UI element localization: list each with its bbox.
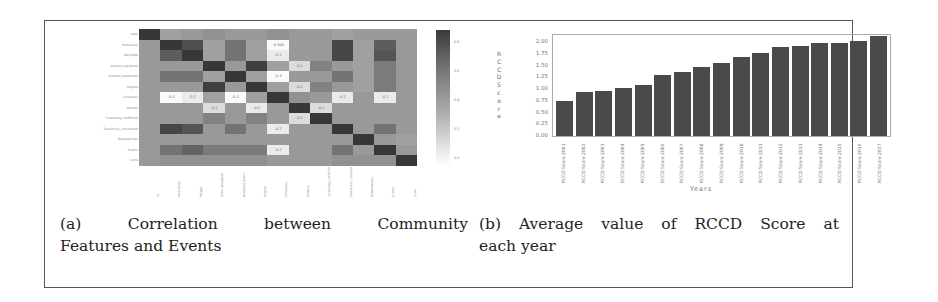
heatmap-cell: -0.3 xyxy=(160,92,181,103)
heatmap-cell xyxy=(374,40,395,51)
y-tick-label: 2.00 xyxy=(536,38,548,44)
heatmap-cell xyxy=(396,71,417,82)
heatmap-cell xyxy=(310,145,331,156)
heatmap-cell xyxy=(139,50,160,61)
heatmap-row-label: Transitivity_component xyxy=(90,124,138,135)
bar xyxy=(713,63,730,136)
heatmap-cell xyxy=(160,145,181,156)
heatmap-cell xyxy=(353,40,374,51)
caption-word: RCCD xyxy=(694,213,742,235)
heatmap-cell xyxy=(203,145,224,156)
heatmap-col-label: transitivity_component xyxy=(332,167,353,197)
heatmap-cell xyxy=(310,155,331,166)
heatmap-cell xyxy=(203,134,224,145)
heatmap-cell xyxy=(310,92,331,103)
heatmap-cell xyxy=(182,50,203,61)
x-tick-label: RCCD Score 2011 xyxy=(752,138,769,183)
caption-word: of xyxy=(661,213,676,235)
y-tick-label: 1.75 xyxy=(536,50,548,56)
heatmap-cell xyxy=(396,50,417,61)
heatmap-cell xyxy=(374,82,395,93)
heatmap-cell xyxy=(203,92,224,103)
heatmap-row-label: Degree xyxy=(90,82,138,93)
heatmap-cell: -0.2 xyxy=(332,92,353,103)
heatmap-cell xyxy=(160,40,181,51)
bar xyxy=(674,72,691,136)
heatmap-cell xyxy=(225,82,246,93)
colorbar-tick: 0.2 xyxy=(454,127,460,131)
heatmap-cell xyxy=(139,134,160,145)
heatmap-cell xyxy=(289,92,310,103)
y-title-char: r xyxy=(495,105,503,113)
heatmap-cell xyxy=(225,40,246,51)
caption-b-line1: (b)AveragevalueofRCCDScoreat xyxy=(479,213,839,235)
heatmap-col-label: Degree xyxy=(246,167,267,197)
x-tick-label: RCCD Score 2008 xyxy=(693,138,710,183)
y-title-char: c xyxy=(495,89,503,97)
heatmap-cell xyxy=(203,29,224,40)
x-tick-label: RCCD Score 2002 xyxy=(575,138,592,183)
heatmap-cell xyxy=(289,50,310,61)
heatmap-cell xyxy=(332,61,353,72)
y-title-char: o xyxy=(495,97,503,105)
heatmap-cell xyxy=(332,103,353,114)
heatmap-row-label: Density xyxy=(90,103,138,114)
bar xyxy=(595,91,612,136)
heatmap-cell: -0.2 xyxy=(267,50,288,61)
heatmap-cell xyxy=(396,155,417,166)
heatmap-cell xyxy=(374,50,395,61)
heatmap-cell xyxy=(246,145,267,156)
heatmap-row-label: Modularity xyxy=(90,40,138,51)
heatmap-cell xyxy=(225,124,246,135)
bar xyxy=(693,67,710,136)
heatmap-cell: -0.1 xyxy=(203,103,224,114)
heatmap-cell xyxy=(246,92,267,103)
y-tick-label: 0.50 xyxy=(536,109,548,115)
heatmap-cell xyxy=(160,124,181,135)
heatmap-cell xyxy=(374,155,395,166)
heatmap-cell xyxy=(353,61,374,72)
heatmap-cell xyxy=(267,29,288,40)
x-tick-label: RCCD Score 2009 xyxy=(713,138,730,183)
y-title-char: C xyxy=(495,58,503,66)
y-tick-label: 0.25 xyxy=(536,120,548,126)
x-tick-label: RCCD Score 2012 xyxy=(772,138,789,183)
heatmap-cell xyxy=(374,61,395,72)
x-tick-label: RCCD Score 2005 xyxy=(634,138,651,183)
heatmap-cell xyxy=(225,155,246,166)
y-axis-ticks: 0.000.250.500.751.001.251.501.752.00 xyxy=(518,30,548,140)
y-title-char: D xyxy=(495,73,503,81)
heatmap-cell xyxy=(332,71,353,82)
heatmap-cell xyxy=(267,134,288,145)
heatmap-cell xyxy=(182,155,203,166)
bar xyxy=(576,92,593,136)
heatmap-cell xyxy=(246,40,267,51)
heatmap-cell xyxy=(139,155,160,166)
heatmap-cell xyxy=(396,40,417,51)
heatmap-cell xyxy=(332,124,353,135)
heatmap-colorbar xyxy=(436,30,450,165)
heatmap-cell xyxy=(353,155,374,166)
colorbar-tick: 0.4 xyxy=(454,98,460,102)
heatmap-row-label: Clustering_coefficient xyxy=(90,113,138,124)
heatmap-cell xyxy=(139,29,160,40)
heatmap-cell xyxy=(332,82,353,93)
colorbar-tick: 0.0 xyxy=(454,156,460,160)
heatmap-cell xyxy=(225,71,246,82)
y-tick-label: 0.00 xyxy=(536,132,548,138)
x-tick-label: RCCD Score 2007 xyxy=(673,138,690,183)
x-axis-tick-labels: RCCD Score 2001RCCD Score 2002RCCD Score… xyxy=(555,138,888,183)
heatmap-cell xyxy=(160,61,181,72)
heatmap-cell xyxy=(246,61,267,72)
heatmap-cell xyxy=(289,155,310,166)
heatmap-cell xyxy=(139,71,160,82)
heatmap-cell xyxy=(353,124,374,135)
y-title-char: S xyxy=(495,81,503,89)
caption-word: Community xyxy=(377,213,468,235)
caption-word: at xyxy=(823,213,838,235)
heatmap-cell xyxy=(139,40,160,51)
heatmap-cell xyxy=(160,82,181,93)
heatmap-cell xyxy=(267,113,288,124)
heatmap-cell xyxy=(203,50,224,61)
x-tick-label: RCCD Score 2013 xyxy=(792,138,809,183)
